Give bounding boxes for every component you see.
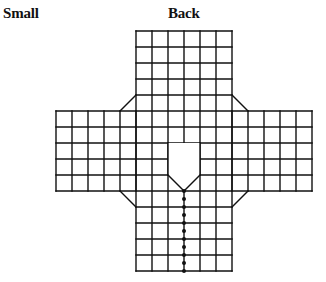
- center-dot: [182, 189, 186, 193]
- center-dot: [182, 221, 186, 225]
- garment-pattern-diagram: [0, 0, 326, 282]
- center-dotted-line: [182, 189, 186, 273]
- center-dot: [182, 197, 186, 201]
- center-dot: [182, 269, 186, 273]
- center-dot: [182, 237, 186, 241]
- left-shoulder-diagonal: [120, 95, 136, 111]
- right-shoulder-diagonal: [232, 95, 248, 111]
- neck-cutout: [168, 143, 200, 191]
- left-underarm-diagonal: [120, 191, 136, 207]
- center-dot: [182, 253, 186, 257]
- center-dot: [182, 229, 186, 233]
- center-dot: [182, 213, 186, 217]
- center-dot: [182, 261, 186, 265]
- right-underarm-diagonal: [232, 191, 248, 207]
- center-dot: [182, 245, 186, 249]
- center-dot: [182, 205, 186, 209]
